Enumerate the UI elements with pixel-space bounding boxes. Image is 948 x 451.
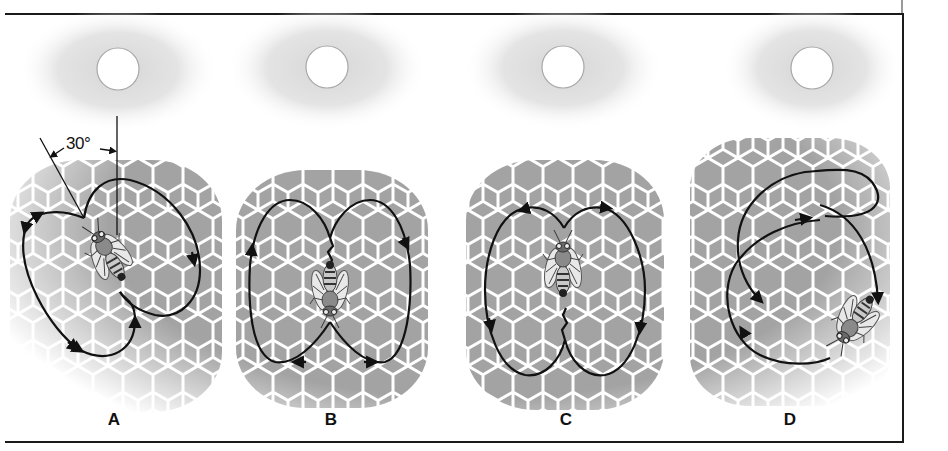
sun-icon-b (306, 46, 348, 88)
bee-dance-figure (0, 0, 948, 451)
sun-icon-a (97, 48, 139, 90)
sun-icon-c (542, 46, 584, 88)
panel-label-b: B (311, 410, 351, 430)
sun-icon-d (791, 47, 833, 89)
panel-label-c: C (546, 410, 586, 430)
angle-arc-arrow-right (100, 149, 114, 151)
sun-halos (18, 6, 902, 132)
angle-annotation: 30° (66, 134, 90, 154)
panel-label-d: D (770, 410, 810, 430)
honeycomb-d (690, 138, 890, 406)
honeycomb-panels (10, 138, 890, 412)
panel-label-a: A (94, 410, 134, 430)
angle-arc-arrow-left (52, 148, 64, 156)
honeycomb-a (10, 160, 222, 412)
